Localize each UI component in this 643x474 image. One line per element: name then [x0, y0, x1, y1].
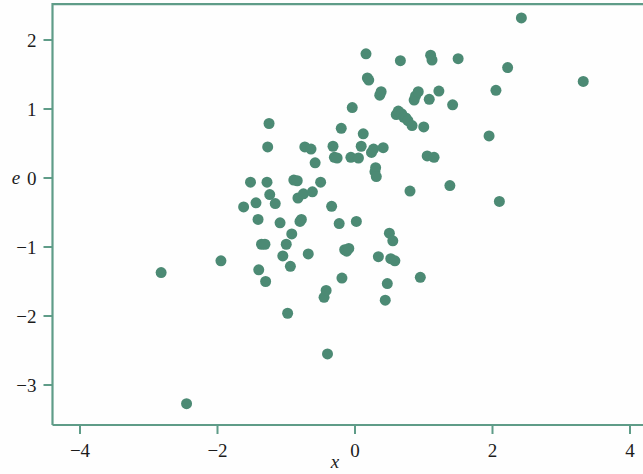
scatter-point — [156, 267, 167, 278]
scatter-point — [286, 228, 297, 239]
scatter-point — [296, 214, 307, 225]
scatter-point — [447, 99, 458, 110]
scatter-point — [270, 198, 281, 209]
scatter-point — [264, 118, 275, 129]
scatter-point — [380, 295, 391, 306]
scatter-point — [321, 285, 332, 296]
scatter-point — [306, 144, 317, 155]
scatter-point — [378, 142, 389, 153]
x-axis-title: x — [330, 451, 340, 472]
scatter-point — [361, 48, 372, 59]
scatter-point — [433, 86, 444, 97]
scatter-point — [275, 217, 286, 228]
scatter-point — [260, 276, 271, 287]
scatter-point — [281, 239, 292, 250]
scatter-point — [356, 141, 367, 152]
y-tick-label: −1 — [16, 237, 36, 258]
scatter-point — [336, 273, 347, 284]
scatter-point — [307, 186, 318, 197]
scatter-point — [484, 130, 495, 141]
scatter-point — [387, 235, 398, 246]
scatter-point — [282, 308, 293, 319]
scatter-point — [336, 123, 347, 134]
plot-canvas: −4−2024210−1−2−3 x e — [0, 0, 643, 474]
scatter-point — [578, 76, 589, 87]
scatter-point — [382, 278, 393, 289]
scatter-point — [303, 248, 314, 259]
scatter-point — [310, 157, 321, 168]
scatter-point — [334, 218, 345, 229]
scatter-point — [376, 86, 387, 97]
scatter-point — [368, 144, 379, 155]
scatter-point — [389, 255, 400, 266]
scatter-point — [418, 121, 429, 132]
y-axis-title: e — [12, 167, 20, 188]
scatter-point — [358, 128, 369, 139]
x-tick-label: 0 — [350, 440, 360, 461]
scatter-point — [407, 120, 418, 131]
scatter-point — [253, 264, 264, 275]
scatter-point — [429, 152, 440, 163]
y-tick-label: −3 — [16, 375, 36, 396]
x-tick-label: 2 — [488, 440, 498, 461]
axis-tick-labels: −4−2024210−1−2−3 — [16, 30, 635, 461]
scatter-point — [516, 12, 527, 23]
x-tick-label: −2 — [207, 440, 227, 461]
scatter-point — [371, 171, 382, 182]
scatter-point — [332, 152, 343, 163]
scatter-point — [395, 55, 406, 66]
scatter-point — [238, 201, 249, 212]
data-points — [156, 12, 589, 409]
scatter-point — [413, 86, 424, 97]
scatter-point — [285, 261, 296, 272]
scatter-point — [251, 197, 262, 208]
scatter-point — [415, 272, 426, 283]
scatter-point — [405, 186, 416, 197]
scatter-point — [351, 216, 362, 227]
scatter-plot-figure: −4−2024210−1−2−3 x e — [0, 0, 643, 474]
scatter-point — [343, 243, 354, 254]
scatter-point — [262, 177, 273, 188]
axis-ticks — [44, 40, 631, 434]
scatter-point — [363, 75, 374, 86]
scatter-point — [347, 102, 358, 113]
x-tick-label: 4 — [625, 440, 635, 461]
scatter-point — [427, 55, 438, 66]
scatter-point — [373, 251, 384, 262]
scatter-point — [328, 141, 339, 152]
scatter-point — [253, 214, 264, 225]
scatter-point — [424, 94, 435, 105]
scatter-point — [277, 250, 288, 261]
scatter-point — [326, 201, 337, 212]
y-tick-label: −2 — [16, 306, 36, 327]
scatter-point — [353, 152, 364, 163]
scatter-point — [453, 53, 464, 64]
x-tick-label: −4 — [70, 440, 91, 461]
scatter-point — [215, 255, 226, 266]
scatter-point — [494, 196, 505, 207]
scatter-point — [292, 175, 303, 186]
y-tick-label: 2 — [27, 30, 37, 51]
scatter-point — [444, 180, 455, 191]
scatter-point — [259, 239, 270, 250]
scatter-point — [502, 62, 513, 73]
scatter-point — [181, 398, 192, 409]
scatter-point — [262, 141, 273, 152]
plot-frame — [53, 4, 643, 425]
scatter-point — [315, 177, 326, 188]
scatter-point — [245, 177, 256, 188]
scatter-point — [322, 348, 333, 359]
scatter-point — [490, 85, 501, 96]
y-tick-label: 0 — [27, 168, 37, 189]
y-tick-label: 1 — [27, 99, 37, 120]
